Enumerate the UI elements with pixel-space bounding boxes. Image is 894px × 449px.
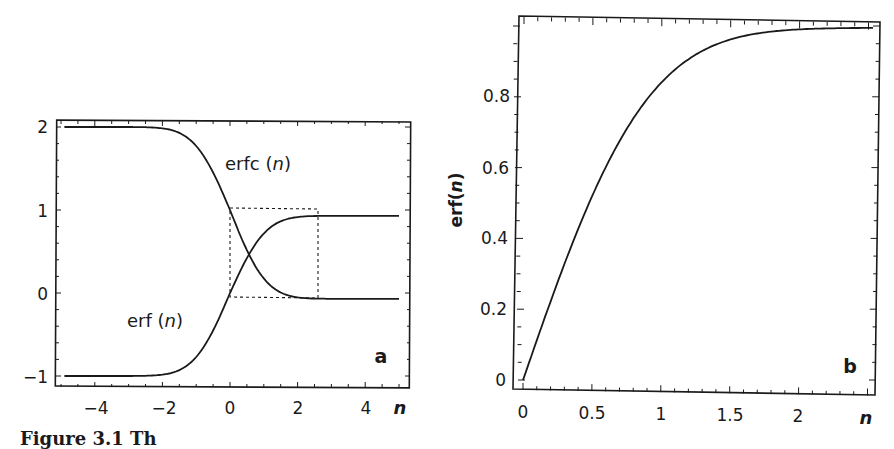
y-tick-label: 0.4 xyxy=(481,228,508,248)
x-tick-label: 0 xyxy=(518,402,529,422)
x-tick-label: −2 xyxy=(151,398,176,418)
panel-a-label: a xyxy=(375,345,388,367)
erf-curve-b xyxy=(523,28,873,380)
panel-b-frame xyxy=(513,16,880,395)
panel-b-ticks xyxy=(513,17,880,396)
x-tick-label: 1.5 xyxy=(716,405,743,425)
y-tick-label: −1 xyxy=(23,367,48,387)
y-tick-label: 0 xyxy=(37,284,48,304)
figure-caption: Figure 3.1 Th xyxy=(20,428,157,449)
x-tick-label: 0 xyxy=(225,398,236,418)
erf-curve xyxy=(64,216,399,376)
panel-b: 0 0.5 1 1.5 2 n 0 0.2 0.4 0.6 0.8 erf(n)… xyxy=(446,16,880,428)
panel-a-x-tick-labels: −4 −2 0 2 4 n xyxy=(83,397,406,418)
x-tick-label: 2 xyxy=(293,398,304,418)
x-tick-label: 1 xyxy=(656,404,667,424)
erf-annotation: erf (n) xyxy=(127,310,183,331)
y-tick-label: 0 xyxy=(495,370,506,390)
y-tick-label: 0.2 xyxy=(480,299,507,319)
y-tick-label: 2 xyxy=(37,117,48,137)
panel-b-label: b xyxy=(843,355,857,377)
x-tick-label: 4 xyxy=(361,398,372,418)
x-tick-label: 2 xyxy=(793,406,804,426)
x-axis-label: n xyxy=(860,407,873,428)
y-axis-label: erf(n) xyxy=(446,173,466,228)
y-tick-label: 0.8 xyxy=(483,86,510,106)
y-tick-label: 0.6 xyxy=(482,158,509,178)
panel-a: −4 −2 0 2 4 n −1 0 1 2 erfc (n) erf (n) … xyxy=(23,117,411,418)
y-tick-label: 1 xyxy=(37,201,48,221)
dashed-box xyxy=(230,208,318,298)
panel-b-x-tick-labels: 0 0.5 1 1.5 2 n xyxy=(518,402,873,428)
x-tick-label: 0.5 xyxy=(578,403,605,423)
x-tick-label: −4 xyxy=(83,398,108,418)
panel-b-y-tick-labels: 0 0.2 0.4 0.6 0.8 xyxy=(480,86,510,390)
erfc-annotation: erfc (n) xyxy=(225,153,291,174)
x-axis-label: n xyxy=(394,397,407,418)
panel-a-y-tick-labels: −1 0 1 2 xyxy=(23,117,48,387)
